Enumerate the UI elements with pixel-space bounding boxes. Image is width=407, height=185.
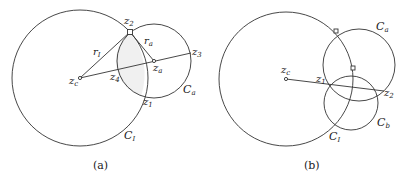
label-z2: z2 [123, 15, 134, 28]
label-Ca: Ca [376, 20, 389, 34]
right-angle-marker [128, 30, 133, 35]
label-CI: CI [124, 129, 135, 143]
right-angle-marker-2 [351, 66, 355, 70]
point-zc [284, 77, 287, 80]
label-z2: z2 [383, 87, 394, 100]
caption-a: (a) [93, 159, 108, 172]
label-Cb: Cb [377, 116, 390, 130]
label-zc: zc [280, 64, 290, 77]
label-rI: rI [93, 46, 101, 59]
right-angle-marker-1 [334, 29, 338, 33]
panel-b [219, 12, 395, 146]
diagram-canvas: z2 rI ra z3 zc z4 za Ca z1 CI (a) Ca zc … [0, 0, 407, 185]
label-ra: ra [144, 35, 153, 48]
caption-b: (b) [304, 159, 320, 172]
label-zc: zc [68, 75, 78, 88]
label-za: za [152, 62, 162, 75]
label-CI: CI [329, 130, 340, 144]
label-Ca: Ca [183, 83, 196, 97]
point-zc [78, 76, 81, 79]
panel-a [12, 10, 191, 146]
circle-Cb [324, 76, 378, 130]
label-z3: z3 [191, 46, 202, 59]
